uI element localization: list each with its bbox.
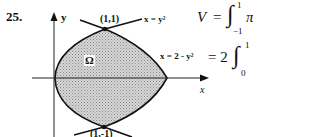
x-axis-arrow-icon bbox=[200, 75, 209, 82]
lower-limit: −1 bbox=[233, 26, 243, 36]
top-point-label: (1,1) bbox=[100, 13, 119, 24]
integral-sign-2: ∫ bbox=[233, 42, 240, 69]
equals-sign: = bbox=[213, 9, 221, 26]
curve1-label: x = y² bbox=[144, 14, 165, 24]
bottom-point-label: (1,-1) bbox=[90, 128, 113, 137]
x-axis-label: x bbox=[200, 84, 204, 95]
lower-limit-2: 0 bbox=[241, 68, 246, 78]
y-axis-arrow-icon bbox=[51, 12, 58, 21]
upper-limit-2: 1 bbox=[245, 40, 250, 50]
upper-limit: 1 bbox=[237, 0, 242, 10]
pi-symbol: π bbox=[246, 9, 253, 26]
point-top bbox=[103, 27, 108, 32]
y-axis-label: y bbox=[61, 11, 67, 23]
curve2-label: x = 2 - y² bbox=[160, 51, 193, 61]
equals-two: = 2 bbox=[208, 49, 228, 66]
volume-symbol: V bbox=[197, 9, 206, 26]
integral-sign: ∫ bbox=[227, 1, 234, 28]
region-label: Ω bbox=[84, 55, 95, 66]
